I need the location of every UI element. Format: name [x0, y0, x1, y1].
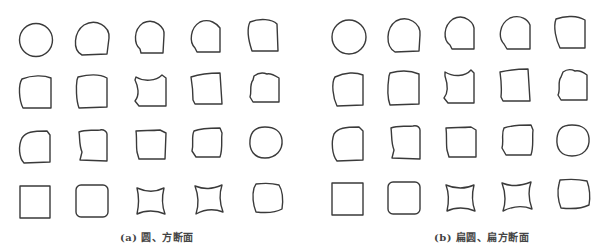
shape-b-r1c4 [500, 17, 530, 49]
shape-b-r3c1 [332, 127, 363, 161]
shape-a-r1c2 [75, 22, 109, 55]
shape-b-r1c3 [445, 17, 474, 49]
caption-panel-a: (a) 圆、方断面 [120, 229, 194, 244]
shape-a-r4c5 [253, 183, 283, 212]
shape-b-r2c5 [558, 70, 587, 100]
shape-b-r1c2 [388, 19, 420, 52]
shape-a-r4c3 [137, 188, 165, 214]
shape-a-r3c2 [79, 130, 107, 161]
shape-b-r1c5 [555, 16, 585, 48]
shape-a-r2c3 [135, 75, 166, 106]
shape-b-r2c1 [333, 73, 363, 106]
shape-b-r3c5 [557, 125, 589, 156]
shape-a-r3c1 [20, 131, 50, 163]
shape-b-r4c4 [502, 182, 532, 211]
panel-b-shapes [332, 16, 590, 215]
shape-a-r1c4 [191, 21, 220, 52]
shape-a-r3c3 [136, 130, 166, 159]
shape-b-r2c4 [500, 69, 530, 101]
shape-a-r1c1-circle [20, 24, 53, 57]
shape-b-r2c3 [444, 70, 474, 103]
shape-b-r4c2-rounded-square [388, 182, 420, 214]
shape-a-r2c5 [250, 73, 279, 102]
shape-a-r2c4 [191, 73, 222, 104]
shape-a-r4c1-square [20, 186, 50, 218]
shape-b-r4c5 [558, 179, 590, 208]
shape-a-r1c3 [135, 21, 164, 53]
shape-b-r3c4 [502, 125, 533, 155]
shape-a-r4c2-rounded-square [76, 185, 108, 217]
shape-b-r4c3 [446, 185, 475, 211]
shape-b-r3c3 [446, 127, 476, 157]
shape-b-r4c1-square [332, 183, 363, 215]
caption-panel-b: (b) 扁圆、扁方断面 [434, 229, 529, 244]
shape-a-r4c4 [195, 185, 223, 214]
shape-a-r2c2 [76, 75, 107, 108]
shape-a-r3c5 [250, 127, 282, 158]
shape-a-r2c1 [19, 76, 51, 108]
shape-a-r1c5 [248, 20, 278, 51]
cross-section-figure [0, 0, 610, 251]
panel-a-shapes [19, 20, 282, 218]
shape-b-r2c2 [388, 71, 419, 105]
shape-a-r3c4 [192, 128, 222, 157]
shape-b-r3c2 [391, 126, 420, 159]
shape-b-r1c1-circle [332, 20, 366, 54]
